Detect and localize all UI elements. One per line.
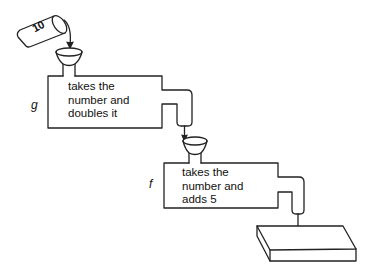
machine-f-label: f (149, 177, 152, 191)
funnel-f-icon (183, 137, 207, 163)
machine-g-label: g (31, 98, 38, 112)
funnel-g-icon (56, 48, 82, 76)
output-tray-icon (257, 226, 356, 261)
function-machine-diagram: 10 (0, 0, 373, 278)
machine-f-text: takes the number and adds 5 (182, 166, 243, 207)
machine-g-text: takes the number and doubles it (68, 80, 129, 121)
